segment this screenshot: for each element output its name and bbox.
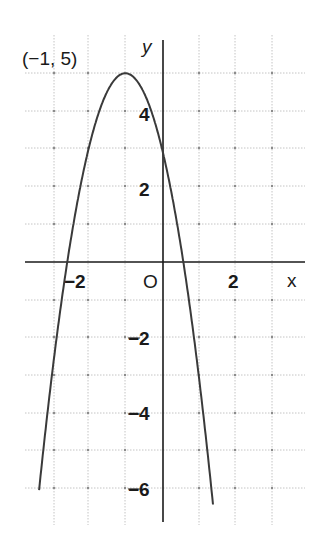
y-tick-label-4: 4 [139,104,150,125]
x-axis-label: x [287,270,297,291]
x-tick-label-2: 2 [228,271,239,292]
origin-label: O [143,271,158,292]
parabola-chart: (−1, 5) y x O −2 2 4 2 −2 −4 −6 [0,0,319,553]
y-tick-label-neg4: −4 [128,403,150,424]
vertex-label: (−1, 5) [22,48,77,69]
y-tick-label-neg2: −2 [128,328,150,349]
y-tick-label-neg6: −6 [128,479,150,500]
y-axis-label: y [140,36,153,57]
x-tick-label-neg2: −2 [64,271,86,292]
y-tick-label-2: 2 [139,179,150,200]
